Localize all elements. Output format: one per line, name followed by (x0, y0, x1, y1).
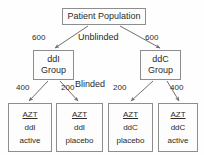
azt-ddi-active-status: active (20, 136, 41, 145)
node-azt-ddc-placebo: AZT ddC placebo (108, 103, 153, 152)
azt-ddc-placebo-drug: AZT (123, 110, 138, 119)
allocation-label-ddc: 600 (145, 33, 158, 42)
ddc-group-suffix: Group (148, 65, 173, 76)
allocation-label-azt-ddi-active: 400 (16, 83, 29, 92)
azt-ddc-placebo-status: placebo (116, 136, 144, 145)
ddi-group-drug: ddI (47, 54, 60, 65)
edge-ddc-to-azt-ddc-placebo (131, 81, 153, 101)
ddc-group-drug: ddC (152, 54, 169, 65)
node-patient-population: Patient Population (62, 8, 146, 25)
azt-ddc-active-drug: AZT (170, 110, 185, 119)
node-azt-ddi-placebo: AZT ddI placebo (56, 103, 103, 152)
azt-ddc-active-status: active (168, 136, 189, 145)
unblinded-stage-label: Unblinded (78, 32, 119, 42)
blinded-stage-label: Blinded (75, 79, 105, 89)
allocation-label-azt-ddi-placebo: 200 (61, 83, 74, 92)
node-ddc-group: ddC Group (140, 50, 181, 80)
edge-ddi-to-azt-ddi-active (29, 81, 48, 101)
node-azt-ddc-active: AZT ddC active (158, 103, 198, 152)
clinical-trial-flow-diagram: Patient Population 600 600 Unblinded Bli… (0, 0, 204, 155)
azt-ddc-placebo-companion: ddC (123, 123, 138, 132)
azt-ddi-active-drug: AZT (22, 110, 37, 119)
azt-ddi-placebo-status: placebo (65, 136, 93, 145)
azt-ddc-active-companion: ddC (171, 123, 186, 132)
azt-ddi-placebo-drug: AZT (72, 110, 87, 119)
allocation-label-azt-ddc-placebo: 200 (113, 83, 126, 92)
allocation-label-ddi: 600 (32, 33, 45, 42)
azt-ddi-active-companion: ddI (24, 123, 35, 132)
ddi-group-suffix: Group (41, 65, 66, 76)
allocation-label-azt-ddc-active: 400 (170, 83, 183, 92)
node-ddi-group: ddI Group (33, 50, 74, 80)
patient-population-label: Patient Population (67, 11, 140, 22)
node-azt-ddi-active: AZT ddI active (8, 103, 52, 152)
azt-ddi-placebo-companion: ddI (74, 123, 85, 132)
